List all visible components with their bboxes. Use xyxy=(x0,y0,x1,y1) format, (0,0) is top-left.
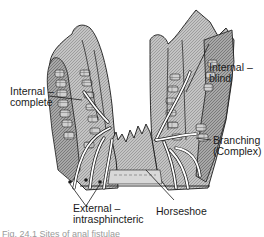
label-line-2: blind xyxy=(209,73,253,84)
figure-caption: Fig. 24.1 Sites of anal fistulae xyxy=(2,229,120,237)
label-line-2: (Complex) xyxy=(213,146,261,157)
label-external-intrasphincteric: External – intrasphincteric xyxy=(73,203,144,225)
label-line-2: intrasphincteric xyxy=(73,214,144,225)
label-line-2: complete xyxy=(10,97,54,108)
label-internal-blind: Internal – blind xyxy=(209,62,253,84)
right-rectal-wall xyxy=(150,10,234,190)
label-internal-complete: Internal – complete xyxy=(10,86,54,108)
label-branching: Branching (Complex) xyxy=(213,135,261,157)
anal-fistula-diagram: Internal – complete Internal – blind Bra… xyxy=(0,0,264,237)
label-horseshoe: Horseshoe xyxy=(156,206,207,217)
anatomy-illustration xyxy=(0,0,264,237)
